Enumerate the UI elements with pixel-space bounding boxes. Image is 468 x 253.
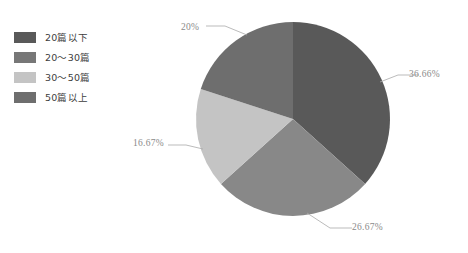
slice-label-16-67: 16.67%	[133, 138, 164, 148]
slice-label-20: 20%	[181, 22, 199, 32]
pie-chart-figure: 20篇以下 20～30篇 30～50篇 50篇以上 20% 36.66% 26.…	[0, 0, 468, 253]
leader-line-20	[206, 26, 247, 35]
leader-line-1667	[168, 145, 203, 149]
slice-label-36-66: 36.66%	[409, 69, 440, 79]
slice-label-26-67: 26.67%	[352, 222, 383, 232]
leader-line-2667	[307, 213, 352, 228]
pie-slices	[196, 22, 390, 216]
pie-svg	[0, 0, 468, 253]
